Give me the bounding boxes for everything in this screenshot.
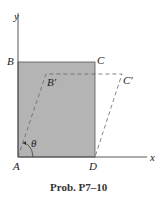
x-axis-label: x xyxy=(149,151,155,163)
diagram-canvas: y x B C B' C' A D θ Prob. P7–10 xyxy=(0,0,162,199)
angle-theta-label: θ xyxy=(31,137,37,149)
label-d: D xyxy=(88,160,97,172)
label-b-prime: B' xyxy=(47,76,57,88)
label-c-prime: C' xyxy=(123,74,133,86)
label-b: B xyxy=(7,55,14,67)
y-axis-label: y xyxy=(13,10,19,22)
label-c: C xyxy=(97,54,105,66)
label-a: A xyxy=(12,160,20,172)
figure-caption: Prob. P7–10 xyxy=(50,181,108,193)
rectangle-abcd xyxy=(18,62,95,157)
